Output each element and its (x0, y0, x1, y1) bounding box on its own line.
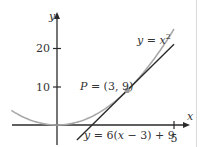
point-p-label: P = (3, 9) (79, 80, 133, 93)
parabola-label: y = x2 (136, 32, 171, 47)
x-axis-label: x (187, 110, 194, 123)
y-axis-label: y (48, 10, 56, 23)
y-tick-label-20: 20 (36, 42, 50, 55)
y-tick-label-10: 10 (36, 81, 50, 94)
tangent-label: y = 6(x − 3) + 9 (83, 129, 175, 142)
tangent-line-plot: y x 20 10 5 y = x2 P = (3, 9) y = 6(x − … (0, 0, 201, 147)
axes (12, 12, 190, 145)
